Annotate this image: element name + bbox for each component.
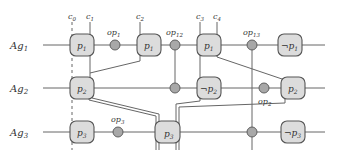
cut-c4-link [217,52,285,80]
op-node-op12: op12 [166,28,183,50]
svg-text:op2: op2 [258,97,272,107]
state-box-ag1-1: p1 [70,34,94,56]
state-box-ag2-2: ¬p2 [197,77,221,99]
svg-text:op3: op3 [111,115,125,125]
state-box-ag3-1: p3 [70,121,94,143]
channel-b-outer [176,95,200,150]
cut-label-c0: c0 [68,12,76,22]
cut-label-c2: c2 [136,12,144,22]
agent-label-ag2: Ag2 [9,83,29,96]
svg-text:op13: op13 [243,28,260,38]
op-node-op3: op3 [111,115,125,137]
agent-label-ag1: Ag1 [9,40,28,53]
cut-label-c1: c1 [86,12,94,22]
svg-text:op12: op12 [166,28,183,38]
state-box-ag3-2: p3 [155,121,180,143]
state-box-ag2-1: p2 [70,77,94,99]
op-node-op2: op2 [258,83,272,107]
state-box-ag1-4: ¬p1 [278,34,302,56]
op-node-ag3-unlabeled [247,127,257,137]
cut-c2-link [90,52,140,73]
state-box-ag1-2: p1 [137,34,161,56]
op-node-op1: op1 [107,28,120,50]
state-box-ag2-3: p2 [281,77,305,99]
causality-diagram: Ag1 Ag2 Ag3 c0 c1 c2 c3 c4 p1 p1 p1 ¬p1 … [0,0,345,155]
op-node-op13: op13 [243,28,260,50]
agent-label-ag3: Ag3 [9,127,29,140]
state-box-ag1-3: p1 [197,34,221,56]
svg-text:op1: op1 [107,28,120,38]
state-box-ag3-3: ¬p3 [281,121,305,143]
cut-label-c3: c3 [196,12,204,22]
op-node-ag2-unlabeled [170,83,180,93]
cut-label-c4: c4 [213,12,221,22]
